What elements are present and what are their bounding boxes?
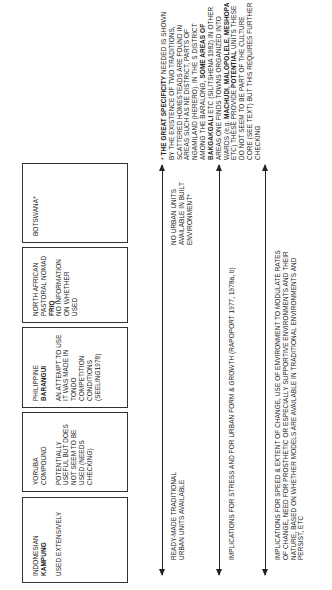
- box-term: KAMPUNG: [40, 542, 47, 576]
- box-term: BARANGUI: [40, 366, 47, 401]
- box-north-african-friq: NORTH AFRICAN PASTORAL NOMAD FRIQ NO INF…: [22, 247, 128, 323]
- arrow-head-left-icon: [159, 569, 165, 576]
- box-region: NORTH AFRICAN PASTORAL NOMAD: [32, 254, 48, 316]
- double-arrow-availability: [162, 165, 163, 575]
- box-note: USED EXTENSIVELY: [55, 512, 62, 576]
- box-philippine-barangui: PHILIPPINE BARANGUI AN ATTEMPT TO USE IT…: [22, 327, 128, 408]
- box-term: FRIQ: [48, 300, 55, 316]
- box-region: PHILIPPINE: [32, 334, 40, 401]
- arrow-head-right-icon: [216, 164, 222, 171]
- arrow-3-label: IMPLICATIONS FOR SPEED & EXTENT OF CHANG…: [274, 250, 305, 560]
- arrow-1-right-label: NO URBAN UNITS AVAILABLE IN BUILT ENVIRO…: [170, 182, 193, 245]
- box-yoruba-compound: YORUBA COMPOUND POTENTIALLY USEFUL BUT D…: [22, 412, 128, 492]
- box-region: INDONESIAN: [32, 504, 40, 576]
- box-note: AN ATTEMPT TO USE IT WAS MADE IN TONDO C…: [55, 334, 101, 401]
- double-arrow-change: [265, 165, 266, 575]
- arrow-head-right-icon: [262, 164, 268, 171]
- arrow-head-left-icon: [262, 569, 268, 576]
- footnote-bold-3: POTENTIAL: [230, 51, 237, 88]
- box-note: NO INFORMATION ON WHETHER USED: [55, 259, 78, 316]
- arrow-head-left-icon: [216, 569, 222, 576]
- box-region: BOTSWANA*: [32, 170, 40, 236]
- footnote-marker: *: [160, 157, 167, 160]
- footnote-bold-2: MACHUDI, MALOPOLELE, MESHOPA: [223, 3, 230, 119]
- double-arrow-stress: [219, 165, 220, 575]
- rotated-diagram-page: INDONESIAN KAMPUNG USED EXTENSIVELY YORU…: [0, 0, 332, 590]
- arrow-1-left-label: READY-MADE TRADITIONAL URBAN UNITS AVAIL…: [170, 472, 186, 560]
- footnote-lead: THE GREAT SPECIFICITY: [160, 76, 167, 156]
- box-indonesian-kampung: INDONESIAN KAMPUNG USED EXTENSIVELY: [22, 497, 128, 583]
- footnote-text-3: ETC) THESE PROVIDE: [230, 90, 237, 160]
- box-botswana: BOTSWANA*: [22, 163, 128, 243]
- box-term: COMPOUND: [40, 446, 47, 485]
- botswana-footnote: * THE GREAT SPECIFICITY NEEDED IS SHOWN …: [160, 2, 262, 160]
- box-note: POTENTIALLY USEFUL BUT DOES NOT SEEM TO …: [55, 424, 93, 485]
- box-region: YORUBA: [32, 419, 40, 485]
- arrow-head-right-icon: [159, 164, 165, 171]
- arrow-2-label: IMPLICATIONS FOR STRESS AND FOR URBAN FO…: [228, 267, 236, 560]
